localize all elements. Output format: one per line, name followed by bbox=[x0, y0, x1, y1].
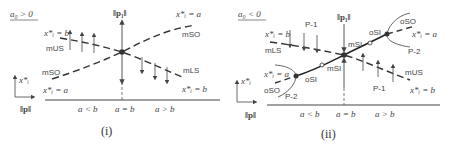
vertical-axis-label: ‖p₁‖ bbox=[337, 12, 351, 22]
label-top-left: x*ᵢ = b bbox=[264, 29, 290, 39]
panel-ii: a₀ < 0 ‖p₁‖ x*ᵢ ‖p‖ a < b a = b a > b bbox=[237, 9, 440, 141]
figure-canvas: a₀ > 0 ‖p₁‖ x*ᵢ ‖p‖ a < b a = b a > b bbox=[0, 0, 454, 151]
equilibrium-point bbox=[341, 52, 347, 58]
tick-a-eq-b: a = b bbox=[336, 109, 356, 119]
label-osi-left: oSI bbox=[305, 75, 317, 84]
label-oso-right: oSO bbox=[400, 17, 416, 26]
open-point-lower bbox=[320, 63, 324, 67]
label-mls: mLS bbox=[265, 46, 281, 55]
label-osi-right: oSI bbox=[369, 28, 381, 37]
condition-label: a₀ > 0 bbox=[10, 9, 33, 19]
open-point-upper bbox=[368, 41, 372, 45]
panel-i: a₀ > 0 ‖p₁‖ x*ᵢ ‖p‖ a < b a = b a > b bbox=[10, 8, 220, 138]
label-p1-bottom: P-1 bbox=[373, 84, 386, 93]
label-right-curve: x*ᵢ = a bbox=[411, 29, 437, 39]
mus-mls-curve bbox=[60, 38, 185, 78]
label-bottom-right: x*ᵢ = b bbox=[409, 85, 435, 95]
x-eq-a-right-dashed bbox=[387, 26, 415, 34]
small-axis-label: x*ᵢ bbox=[18, 75, 29, 85]
label-mso-left: mSO bbox=[42, 68, 60, 77]
horizontal-axis-label: ‖p‖ bbox=[245, 110, 256, 120]
panel-caption: (ii) bbox=[321, 127, 336, 141]
label-mus: mUS bbox=[405, 68, 423, 77]
tick-a-lt-b: a < b bbox=[78, 104, 98, 114]
label-mus: mUS bbox=[46, 44, 64, 53]
mls-mus-curve bbox=[270, 42, 410, 80]
label-mso-right: mSO bbox=[182, 30, 200, 39]
fold-point-left bbox=[294, 74, 299, 79]
condition-label: a₀ < 0 bbox=[238, 9, 261, 19]
panel-caption: (i) bbox=[101, 124, 112, 138]
small-axis-label: x*ᵢ bbox=[240, 76, 251, 86]
label-p2-right: P-2 bbox=[408, 47, 421, 56]
label-top-left: x*ᵢ = b bbox=[43, 28, 69, 38]
label-left-curve: x*ᵢ = a bbox=[263, 69, 289, 79]
label-mls: mLS bbox=[183, 66, 199, 75]
label-p2-left: P-2 bbox=[285, 92, 298, 101]
tick-a-gt-b: a > b bbox=[155, 104, 175, 114]
vertical-axis-label: ‖p₁‖ bbox=[113, 8, 127, 18]
label-msi-lower: mSI bbox=[327, 64, 341, 73]
label-p1-top: P-1 bbox=[305, 20, 318, 29]
label-oso-left: oSO bbox=[264, 86, 280, 95]
label-bottom-right: x*ᵢ = b bbox=[181, 84, 207, 94]
fold-point-right bbox=[385, 32, 390, 37]
label-msi-upper: mSI bbox=[348, 40, 362, 49]
tick-a-lt-b: a < b bbox=[300, 109, 320, 119]
tick-a-gt-b: a > b bbox=[375, 109, 395, 119]
horizontal-axis-label: ‖p‖ bbox=[20, 104, 31, 114]
equilibrium-point bbox=[119, 49, 125, 55]
label-top-right: x*ᵢ = a bbox=[175, 9, 201, 19]
label-bottom-left: x*ᵢ = a bbox=[42, 85, 68, 95]
tick-a-eq-b: a = b bbox=[115, 104, 135, 114]
